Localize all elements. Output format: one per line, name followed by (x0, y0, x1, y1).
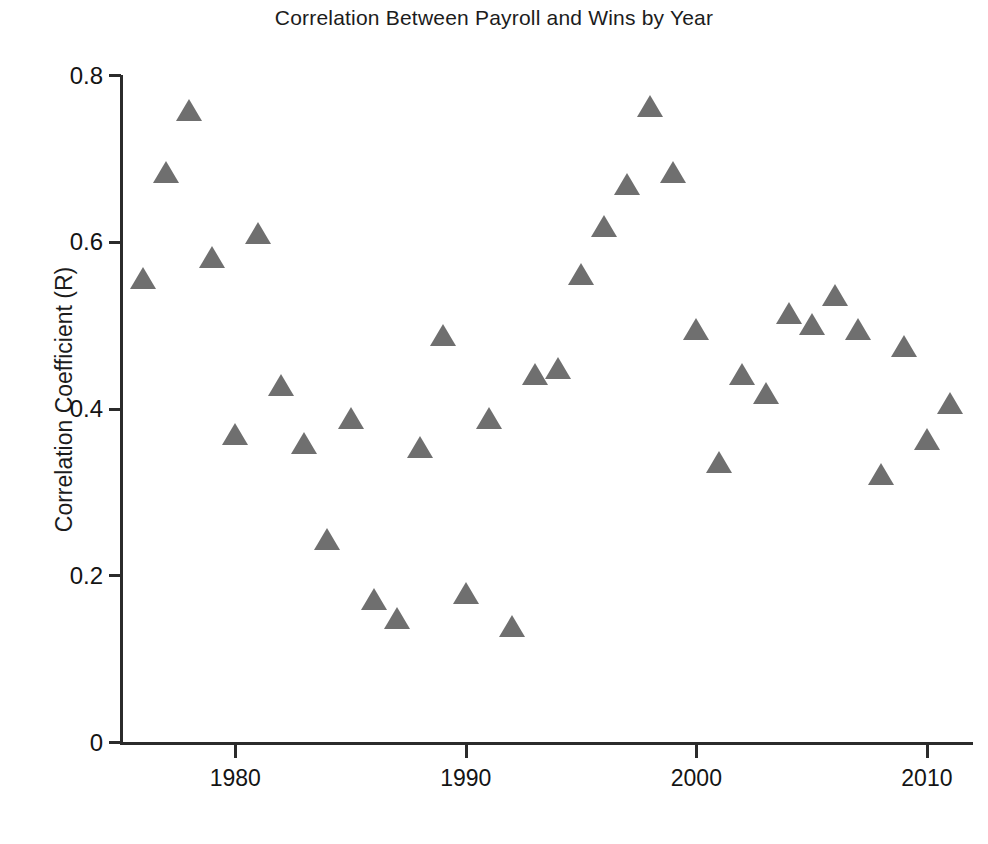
data-point (130, 267, 156, 289)
data-point (499, 615, 525, 637)
data-point (799, 313, 825, 335)
data-point (545, 357, 571, 379)
data-point (384, 607, 410, 629)
data-point (845, 318, 871, 340)
x-axis-line (120, 742, 973, 745)
data-point (660, 161, 686, 183)
data-point (338, 407, 364, 429)
data-point (199, 246, 225, 268)
data-point (268, 374, 294, 396)
data-point (314, 528, 340, 550)
data-point (753, 382, 779, 404)
x-tick-mark-2010 (926, 745, 929, 758)
x-tick-label: 2000 (671, 765, 722, 792)
data-point (822, 284, 848, 306)
y-tick-label: 0 (90, 729, 103, 757)
data-point (868, 463, 894, 485)
x-tick-label: 1990 (440, 765, 491, 792)
data-point (891, 335, 917, 357)
y-tick-label: 0.4 (70, 395, 103, 423)
data-point (637, 95, 663, 117)
x-tick-label: 2010 (901, 765, 952, 792)
data-point (407, 436, 433, 458)
scatter-points-layer (120, 75, 973, 742)
data-point (245, 222, 271, 244)
x-tick-label: 1980 (210, 765, 261, 792)
data-point (706, 451, 732, 473)
data-point (291, 432, 317, 454)
data-point (176, 99, 202, 121)
data-point (937, 392, 963, 414)
chart-figure: Correlation Between Payroll and Wins by … (0, 0, 988, 844)
y-tick-label: 0.2 (70, 562, 103, 590)
data-point (153, 161, 179, 183)
data-point (453, 582, 479, 604)
y-tick-label: 0.8 (70, 62, 103, 90)
data-point (683, 318, 709, 340)
data-point (568, 263, 594, 285)
data-point (614, 173, 640, 195)
y-tick-label: 0.6 (70, 228, 103, 256)
x-tick-mark-1990 (465, 745, 468, 758)
data-point (430, 324, 456, 346)
x-tick-mark-1980 (234, 745, 237, 758)
data-point (591, 215, 617, 237)
x-tick-mark-2000 (695, 745, 698, 758)
plot-region: 00.20.40.60.8 1980199020002010 (120, 75, 973, 742)
data-point (914, 428, 940, 450)
data-point (222, 423, 248, 445)
data-point (476, 407, 502, 429)
page-title: Correlation Between Payroll and Wins by … (0, 6, 988, 30)
